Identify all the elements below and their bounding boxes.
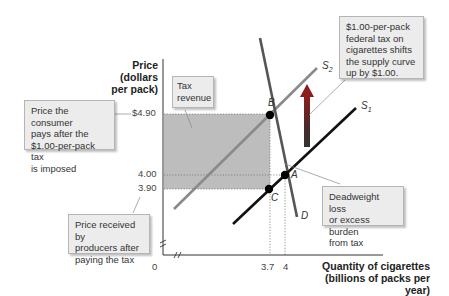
point-b [266, 111, 274, 119]
callout-text: is imposed [31, 163, 108, 175]
callout-text: pays after the [31, 128, 108, 140]
callout-text: Deadweight loss [329, 191, 397, 214]
x-tick-zero: 0 [152, 261, 157, 272]
label-point-a: A [290, 169, 298, 180]
callout-text: or excess burden [329, 214, 397, 237]
callout-text: from tax [329, 237, 397, 249]
supply-shift-arrow-icon [300, 84, 314, 147]
callout-text: $1.00-per-pack [346, 21, 417, 33]
label-s1: S1 [361, 100, 372, 113]
callout-text: cigarettes shifts [346, 44, 417, 56]
y-axis-title-line: (dollars [100, 71, 158, 83]
callout-deadweight-loss: Deadweight loss or excess burden from ta… [322, 186, 404, 226]
label-point-c: C [271, 192, 279, 203]
y-tick-490: $4.90 [132, 107, 156, 118]
callout-text: the supply curve [346, 56, 417, 68]
callout-producer-price: Price received by producers after paying… [68, 214, 150, 254]
label-demand: D [301, 210, 308, 221]
callout-text: Tax [177, 80, 209, 92]
y-axis-title-line: Price [100, 59, 158, 71]
callout-text: Price received by [75, 219, 143, 242]
point-a [281, 171, 289, 179]
x-axis-title-line: Quantity of cigarettes [300, 260, 430, 272]
callout-text: up by $1.00. [346, 67, 417, 79]
tax-revenue-area [164, 114, 270, 189]
callout-consumer-price: Price the consumer pays after the $1.00-… [24, 100, 115, 150]
callout-text: revenue [177, 92, 209, 104]
y-tick-400: 4.00 [138, 168, 157, 179]
callout-text: Price the consumer [31, 105, 108, 128]
label-s2: S2 [322, 60, 333, 73]
callout-text: federal tax on [346, 33, 417, 45]
callout-tax-shift: $1.00-per-pack federal tax on cigarettes… [339, 16, 424, 79]
x-tick-3-7: 3.7 [261, 261, 274, 272]
x-tick-4: 4 [283, 261, 288, 272]
label-point-b: B [268, 97, 275, 108]
callout-tax-revenue: Tax revenue [172, 76, 214, 108]
x-axis-title: Quantity of cigarettes (billions of pack… [300, 260, 430, 296]
x-axis-title-line: (billions of packs per year) [300, 272, 430, 296]
callout-text: paying the tax [75, 254, 143, 266]
callout-text: $1.00-per-pack tax [31, 140, 108, 163]
y-tick-390: 3.90 [138, 182, 157, 193]
y-axis-title-line: per pack) [100, 83, 158, 95]
callout-text: producers after [75, 242, 143, 254]
y-axis-title: Price (dollars per pack) [100, 59, 158, 95]
